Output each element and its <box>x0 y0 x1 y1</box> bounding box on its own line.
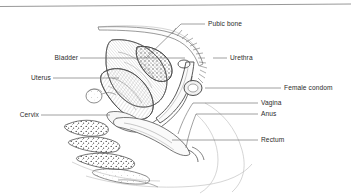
anatomy-figure <box>0 0 351 196</box>
condom-outer-ring <box>184 81 202 96</box>
label-anus: Anus <box>261 110 276 118</box>
label-uterus: Uterus <box>0 74 51 82</box>
label-bladder: Bladder <box>20 54 78 62</box>
label-vagina: Vagina <box>261 99 282 107</box>
body-contours <box>72 26 252 193</box>
label-rectum: Rectum <box>261 136 284 144</box>
diagram-page: Pubic bone Bladder Urethra Uterus Female… <box>0 0 351 196</box>
label-urethra: Urethra <box>230 54 253 62</box>
top-rule <box>0 4 351 7</box>
rectum-body <box>114 117 191 155</box>
anus-body <box>188 147 204 162</box>
label-female-condom: Female condom <box>284 84 333 92</box>
pointer-anus <box>186 114 196 148</box>
label-pubic-bone: Pubic bone <box>208 20 242 28</box>
label-cervix: Cervix <box>0 111 39 119</box>
